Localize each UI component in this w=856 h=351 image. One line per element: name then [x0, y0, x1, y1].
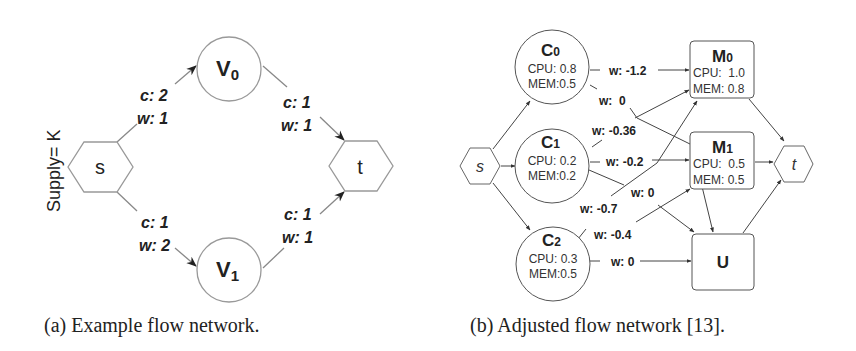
edge-v0-t-weight: w: 1	[281, 117, 312, 134]
edge-c1-m1-weight: w: -0.2	[605, 155, 644, 169]
edge-c0-u-a	[590, 85, 597, 89]
edge-v0-t	[263, 66, 287, 87]
edge-v1-t-arrow	[320, 192, 344, 214]
edge-s-v1-weight: w: 2	[139, 237, 170, 254]
node-m0-mem: MEM: 0.8	[693, 82, 745, 96]
node-t-label: t	[357, 156, 363, 178]
edge-s-v0-weight: w: 1	[137, 110, 168, 127]
panel-a: Supply= K s t V0 V1 c: 2 w: 1 c: 1 w: 1 …	[44, 37, 393, 302]
edge-c1-m0-hook	[592, 140, 602, 147]
edge-v0-t-capacity: c: 1	[283, 94, 311, 111]
node-s-label: s	[476, 158, 484, 175]
node-u-label: U	[717, 253, 729, 272]
edge-c1-u-a	[589, 170, 624, 185]
edge-v0-t-arrow	[320, 117, 344, 140]
node-t-label: t	[792, 156, 797, 173]
node-m1-mem: MEM: 0.5	[693, 173, 745, 187]
edge-s-v1-arrow	[175, 248, 196, 266]
caption-panel-a: (a) Example flow network.	[44, 314, 259, 337]
edge-c1-m0-weight: w: -0.36	[591, 124, 636, 138]
edge-s-v1	[117, 192, 137, 211]
edge-c0-m0-weight: w: -1.2	[608, 64, 647, 78]
edge-c2-m0-b	[611, 101, 697, 196]
edge-s-v0-capacity: c: 2	[140, 87, 168, 104]
edge-s-v0-arrow	[175, 66, 196, 84]
caption-panel-b: (b) Adjusted flow network [13].	[470, 314, 725, 337]
node-m1-cpu: CPU: 0.5	[693, 157, 745, 171]
figure-canvas: Supply= K s t V0 V1 c: 2 w: 1 c: 1 w: 1 …	[0, 0, 856, 351]
edge-s-v0	[117, 124, 137, 142]
node-m0-cpu: CPU: 1.0	[693, 66, 745, 80]
edge-c1-u-weight: w: 0	[630, 186, 655, 200]
node-c2-mem: MEM:0.5	[529, 267, 577, 281]
edge-c2-u-weight: w: 0	[610, 255, 635, 269]
supply-label: Supply= K	[44, 129, 64, 212]
edge-c1-u-b	[658, 205, 694, 232]
edge-v1-t-capacity: c: 1	[284, 206, 312, 223]
node-c1-mem: MEM:0.2	[528, 169, 576, 183]
edge-c0-u-weight: w: 0	[598, 94, 626, 108]
node-c0-mem: MEM:0.5	[528, 77, 576, 91]
edge-c2-m0-weight: w: -0.7	[579, 202, 618, 216]
edge-v1-t-weight: w: 1	[282, 229, 313, 246]
edge-c2-m1-weight: w: -0.4	[593, 228, 632, 242]
node-c2-cpu: CPU: 0.3	[529, 252, 578, 266]
edge-c1-m0	[635, 90, 689, 118]
edge-v1-t	[263, 248, 284, 268]
panel-b: s t C0 CPU: 0.8 MEM:0.5 C1 CPU: 0.2 MEM:…	[460, 30, 813, 301]
node-s-label: s	[95, 156, 105, 178]
node-c0-cpu: CPU: 0.8	[528, 62, 577, 76]
edge-s-v1-capacity: c: 1	[141, 214, 169, 231]
node-c1-cpu: CPU: 0.2	[528, 154, 577, 168]
